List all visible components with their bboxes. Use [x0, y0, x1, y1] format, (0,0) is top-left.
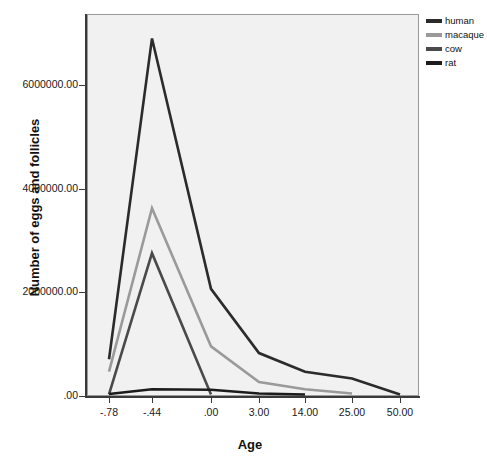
legend-item-cow: cow — [426, 42, 487, 55]
x-tick-mark — [211, 397, 212, 403]
legend-item-rat: rat — [426, 56, 487, 69]
legend-swatch-icon — [426, 61, 442, 65]
y-tick-label: .00 — [0, 389, 78, 401]
y-tick-mark — [79, 189, 86, 190]
chart-container: Number of eggs and follicles 6000000.004… — [0, 0, 487, 465]
legend-swatch-icon — [426, 19, 442, 23]
legend-label: cow — [445, 44, 462, 54]
x-tick-mark — [259, 397, 260, 403]
y-tick-label: 4000000.00 — [0, 182, 78, 194]
x-tick-label: 50.00 — [365, 406, 435, 418]
y-tick-label: 6000000.00 — [0, 78, 78, 90]
y-tick-mark — [79, 85, 86, 86]
chart-legend: humanmacaquecowrat — [426, 14, 487, 70]
x-axis-line — [85, 396, 420, 398]
legend-swatch-icon — [426, 47, 442, 51]
y-axis-line — [85, 14, 87, 397]
legend-item-macaque: macaque — [426, 28, 487, 41]
x-tick-mark — [352, 397, 353, 403]
y-tick-label: 2000000.00 — [0, 285, 78, 297]
legend-label: human — [445, 16, 474, 26]
x-tick-mark — [152, 397, 153, 403]
legend-swatch-icon — [426, 33, 442, 37]
x-tick-mark — [400, 397, 401, 403]
y-axis-title: Number of eggs and follicles — [27, 78, 42, 338]
y-tick-mark — [79, 396, 86, 397]
plot-area — [87, 14, 419, 396]
x-tick-mark — [109, 397, 110, 403]
x-tick-mark — [305, 397, 306, 403]
y-tick-mark — [79, 292, 86, 293]
x-axis-title: Age — [85, 437, 415, 452]
legend-item-human: human — [426, 14, 487, 27]
legend-label: macaque — [445, 30, 484, 40]
legend-label: rat — [445, 58, 456, 68]
